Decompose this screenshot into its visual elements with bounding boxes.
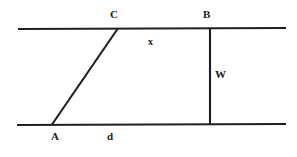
geometry-figure: C B x W A d: [0, 0, 297, 157]
label-vertex-a: A: [51, 131, 59, 142]
label-segment-x: x: [148, 36, 153, 47]
label-segment-w: W: [215, 69, 226, 80]
label-vertex-c: C: [110, 9, 118, 20]
diagonal-side-line: [52, 29, 118, 125]
figure-canvas: [0, 0, 297, 157]
top-parallel-line: [18, 28, 286, 29]
bottom-parallel-line: [17, 124, 286, 125]
label-vertex-b: B: [203, 9, 211, 20]
label-segment-d: d: [107, 131, 113, 142]
